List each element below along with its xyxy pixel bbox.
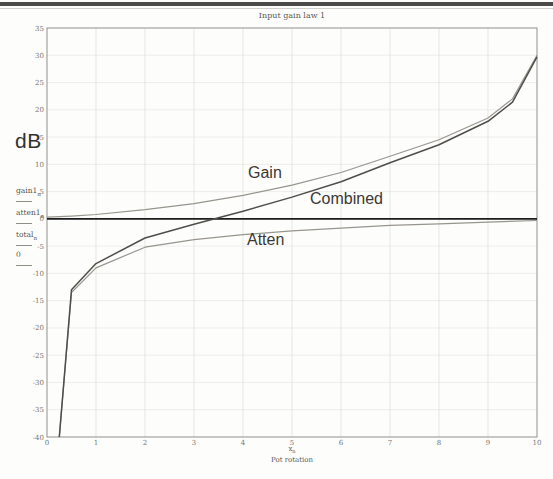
- curve-label-gain: Gain: [248, 164, 282, 182]
- y-axis-expression-zero: 0: [16, 251, 32, 266]
- svg-text:35: 35: [35, 25, 44, 33]
- svg-text:-10: -10: [33, 270, 44, 278]
- svg-text:-5: -5: [37, 243, 44, 251]
- svg-text:30: 30: [35, 52, 44, 60]
- x-axis-expression: xn: [47, 445, 537, 454]
- svg-text:10: 10: [35, 161, 44, 169]
- trace-line-sample: [16, 265, 32, 266]
- y-axis-expression-gain: gain1n: [16, 187, 41, 202]
- svg-text:-25: -25: [33, 352, 44, 360]
- trace-line-sample: [16, 245, 32, 246]
- svg-text:25: 25: [35, 79, 44, 87]
- svg-text:-40: -40: [33, 434, 44, 442]
- y-axis-expression-total: totaln: [16, 231, 37, 246]
- curve-label-combined: Combined: [310, 190, 383, 208]
- trace-line-sample: [16, 201, 32, 202]
- svg-text:-15: -15: [33, 297, 44, 305]
- svg-text:-30: -30: [33, 379, 44, 387]
- curve-label-atten: Atten: [247, 231, 284, 249]
- svg-text:20: 20: [35, 106, 44, 114]
- y-axis-expression-atten: atten1n: [16, 209, 44, 224]
- y-axis-unit-label: dB: [15, 129, 42, 153]
- trace-line-sample: [16, 223, 32, 224]
- svg-text:-20: -20: [33, 324, 44, 332]
- x-axis-caption: Pot rotation: [47, 456, 537, 464]
- page: Input gain law 1 -40-35-30-25-20-15-10-5…: [0, 0, 553, 479]
- svg-text:-35: -35: [33, 406, 44, 414]
